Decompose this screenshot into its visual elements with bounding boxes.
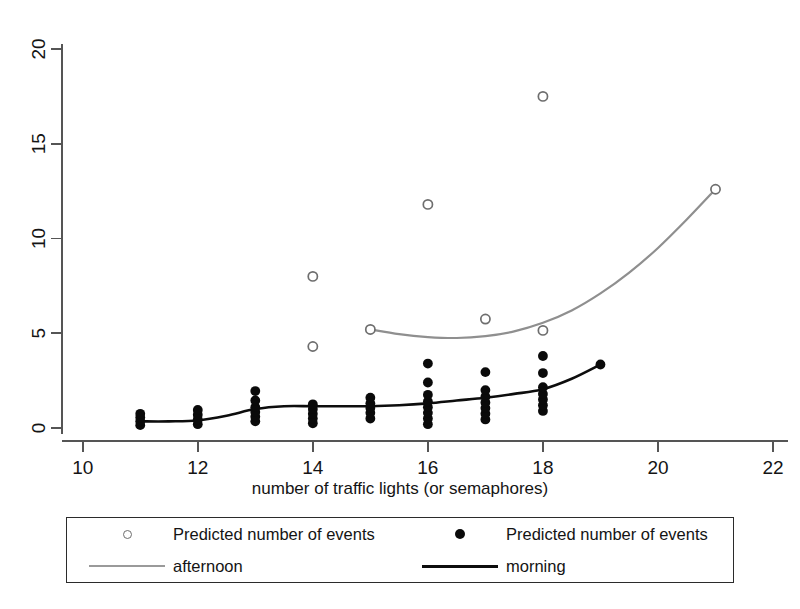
- x-tick-label: 14: [302, 457, 324, 478]
- data-point-morning: [193, 405, 203, 415]
- series-afternoon-points: [308, 92, 720, 351]
- black-line-icon: [414, 565, 506, 568]
- chart-figure: 05101520 10121416182022 number of traffi…: [0, 0, 800, 609]
- legend-label-morning-marker: Predicted number of events: [506, 525, 708, 544]
- y-tick-label: 5: [28, 328, 49, 339]
- legend-entry-afternoon-marker: Predicted number of events: [67, 525, 400, 544]
- gray-line-icon: [81, 565, 173, 567]
- data-point-morning: [423, 390, 433, 400]
- legend-label-morning: morning: [506, 557, 566, 576]
- x-axis: 10121416182022: [62, 441, 788, 478]
- x-tick-label: 16: [417, 457, 438, 478]
- data-point-afternoon: [308, 272, 317, 281]
- x-tick-label: 18: [532, 457, 553, 478]
- data-point-morning: [423, 359, 433, 369]
- y-tick-label: 20: [28, 38, 49, 59]
- data-point-morning: [538, 382, 548, 392]
- data-point-afternoon: [538, 92, 547, 101]
- x-tick-label: 20: [647, 457, 668, 478]
- open-circle-icon: [81, 530, 173, 539]
- x-axis-title: number of traffic lights (or semaphores): [252, 479, 548, 498]
- legend-entry-morning-marker: Predicted number of events: [400, 525, 733, 544]
- data-point-morning: [365, 393, 375, 403]
- y-tick-label: 15: [28, 133, 49, 154]
- filled-circle-icon: [414, 529, 506, 539]
- data-point-afternoon: [481, 314, 490, 323]
- legend-label-afternoon-marker: Predicted number of events: [173, 525, 375, 544]
- x-tick-label: 12: [187, 457, 208, 478]
- data-point-afternoon: [538, 326, 547, 335]
- data-point-morning: [538, 368, 548, 378]
- y-axis: 05101520: [28, 38, 63, 434]
- legend-entry-morning-line: morning: [400, 557, 733, 576]
- data-point-morning: [250, 386, 260, 396]
- data-point-morning: [481, 367, 491, 377]
- chart-legend: Predicted number of events Predicted num…: [66, 517, 734, 583]
- y-tick-label: 10: [28, 228, 49, 249]
- x-tick-label: 10: [72, 457, 93, 478]
- data-point-morning: [250, 396, 260, 406]
- data-point-afternoon: [423, 200, 432, 209]
- data-point-afternoon: [308, 342, 317, 351]
- y-tick-label: 0: [28, 423, 49, 434]
- x-tick-label: 22: [762, 457, 783, 478]
- data-point-afternoon: [711, 185, 720, 194]
- data-point-morning: [423, 378, 433, 388]
- data-point-afternoon: [366, 325, 375, 334]
- data-point-morning: [538, 351, 548, 361]
- data-point-morning: [596, 360, 606, 370]
- series-afternoon-line: [370, 189, 715, 338]
- legend-entry-afternoon-line: afternoon: [67, 557, 400, 576]
- data-point-morning: [308, 399, 318, 409]
- data-point-morning: [481, 385, 491, 395]
- legend-label-afternoon: afternoon: [173, 557, 243, 576]
- data-point-morning: [135, 409, 145, 419]
